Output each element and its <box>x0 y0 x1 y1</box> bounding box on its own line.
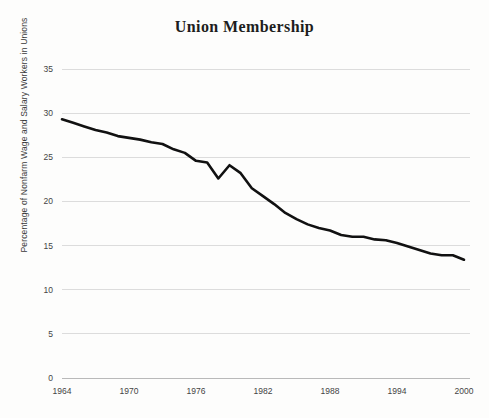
x-axis-tick-label: 1964 <box>53 386 72 396</box>
x-axis-tick-label: 1970 <box>120 386 139 396</box>
chart-container: Union Membership Percentage of Nonfarm W… <box>0 0 489 418</box>
x-axis-tick-labels: 1964197019761982198819942000 <box>53 386 474 396</box>
y-axis-tick-label: 15 <box>44 241 54 251</box>
data-series <box>62 119 464 259</box>
y-axis-tick-label: 25 <box>44 152 54 162</box>
y-axis-tick-label: 5 <box>48 329 53 339</box>
x-axis-tick-label: 1988 <box>321 386 340 396</box>
x-axis-tick-label: 1994 <box>388 386 407 396</box>
y-axis-tick-label: 30 <box>44 108 54 118</box>
plot-area: 05101520253035 1964197019761982198819942… <box>0 0 489 418</box>
x-axis-tick-label: 1982 <box>254 386 273 396</box>
y-axis-tick-label: 35 <box>44 64 54 74</box>
x-axis-tick-label: 1976 <box>187 386 206 396</box>
y-axis-tick-labels: 05101520253035 <box>44 64 54 383</box>
y-axis-tick-label: 20 <box>44 196 54 206</box>
series-line <box>62 119 464 259</box>
x-axis-tick-label: 2000 <box>455 386 474 396</box>
y-axis-tick-label: 0 <box>48 373 53 383</box>
y-axis-tick-label: 10 <box>44 285 54 295</box>
gridlines <box>62 69 470 378</box>
